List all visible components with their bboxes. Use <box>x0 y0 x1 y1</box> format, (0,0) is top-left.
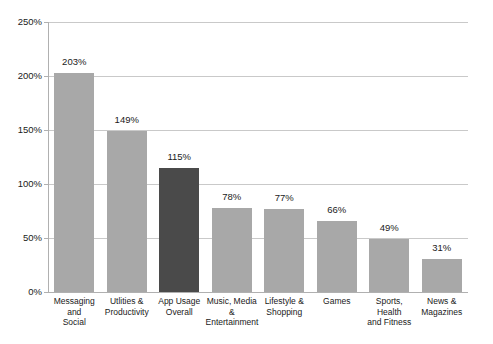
category-label: Sports, Healthand Fitness <box>363 296 416 328</box>
category-label-line: and Fitness <box>363 317 416 328</box>
bar[interactable] <box>54 73 94 292</box>
bar-value-label: 66% <box>327 205 346 215</box>
category-label: Music, Media&Entertainment <box>206 296 259 328</box>
bar-value-label: 78% <box>222 192 241 202</box>
bars-layer: 203%149%115%78%77%66%49%31% <box>48 22 468 292</box>
bar-value-label: 31% <box>432 243 451 253</box>
category-label-line: Messaging and <box>48 296 101 317</box>
bar[interactable] <box>159 168 199 292</box>
gridline-0 <box>48 292 468 293</box>
y-tick-label-50: 50% <box>0 233 42 243</box>
category-label-line: Music, Media <box>206 296 259 307</box>
category-label-line: Shopping <box>258 307 311 318</box>
category-label-line: Lifestyle & <box>258 296 311 307</box>
bar-value-label: 115% <box>167 152 191 162</box>
category-label: Utlities &Productivity <box>101 296 154 317</box>
y-tick-label-100: 100% <box>0 179 42 189</box>
bar-slot: 78% <box>206 22 259 292</box>
category-label-line: Games <box>311 296 364 307</box>
bar-value-label: 149% <box>115 115 139 125</box>
bar[interactable] <box>317 221 357 292</box>
y-tick-label-150: 150% <box>0 125 42 135</box>
category-label: Games <box>311 296 364 307</box>
bar-value-label: 49% <box>380 223 399 233</box>
category-label-line: Productivity <box>101 307 154 318</box>
category-label-line: Entertainment <box>206 317 259 328</box>
category-label-line: Utlities & <box>101 296 154 307</box>
y-tick-label-200: 200% <box>0 71 42 81</box>
category-label-line: Overall <box>153 307 206 318</box>
bar[interactable] <box>212 208 252 292</box>
category-label-line: Social <box>48 317 101 328</box>
category-label-line: & <box>206 307 259 318</box>
bar[interactable] <box>107 131 147 292</box>
bar[interactable] <box>369 239 409 292</box>
y-tick-label-250: 250% <box>0 17 42 27</box>
bar-slot: 149% <box>101 22 154 292</box>
bar-slot: 66% <box>311 22 364 292</box>
category-label: News &Magazines <box>416 296 469 317</box>
category-label: Messaging andSocial <box>48 296 101 328</box>
bar-chart: 0%50%100%150%200%250% 203%149%115%78%77%… <box>0 0 493 344</box>
x-axis-category-labels: Messaging andSocialUtlities &Productivit… <box>48 296 468 344</box>
y-tick-mark-0 <box>44 292 48 293</box>
category-label: Lifestyle &Shopping <box>258 296 311 317</box>
bar[interactable] <box>422 259 462 292</box>
bar-value-label: 77% <box>275 193 294 203</box>
y-tick-label-0: 0% <box>0 287 42 297</box>
bar-slot: 31% <box>416 22 469 292</box>
category-label-line: Magazines <box>416 307 469 318</box>
bar-value-label: 203% <box>62 57 86 67</box>
category-label-line: News & <box>416 296 469 307</box>
category-label-line: Sports, Health <box>363 296 416 317</box>
category-label: App UsageOverall <box>153 296 206 317</box>
bar-slot: 77% <box>258 22 311 292</box>
bar-slot: 115% <box>153 22 206 292</box>
bar-slot: 49% <box>363 22 416 292</box>
bar[interactable] <box>264 209 304 292</box>
category-label-line: App Usage <box>153 296 206 307</box>
bar-slot: 203% <box>48 22 101 292</box>
